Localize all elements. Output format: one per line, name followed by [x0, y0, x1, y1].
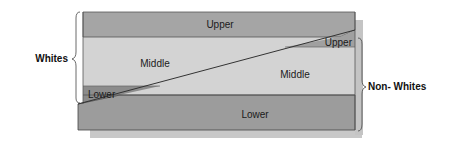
non-whites-middle-label: Middle: [280, 69, 310, 80]
class-structure-diagram: Upper Middle Lower Upper Middle Lower Wh…: [0, 0, 451, 150]
non-whites-lower-band: [78, 95, 355, 130]
non-whites-upper-label: Upper: [325, 37, 353, 48]
whites-group-label: Whites: [35, 53, 68, 64]
whites-middle-label: Middle: [140, 58, 170, 69]
non-whites-group-label: Non- Whites: [368, 81, 427, 92]
whites-brace-icon: [72, 12, 80, 103]
non-whites-lower-label: Lower: [241, 109, 269, 120]
whites-lower-label: Lower: [88, 89, 116, 100]
whites-upper-label: Upper: [206, 19, 234, 30]
